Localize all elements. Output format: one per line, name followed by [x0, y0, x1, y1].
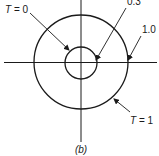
- label-t0: T = 0: [5, 4, 29, 15]
- label-t1-eq: = 1: [136, 115, 153, 126]
- label-r03: 0.3: [127, 0, 141, 7]
- figure-caption: (b): [75, 144, 87, 155]
- r10-arrow: [128, 36, 141, 60]
- label-r10: 1.0: [142, 24, 156, 35]
- t1-arrow: [114, 99, 130, 112]
- label-t0-eq: = 0: [11, 4, 28, 15]
- r03-arrow: [96, 8, 126, 60]
- diagram-figure: T = 0 0.3 1.0 T = 1 (b): [0, 0, 159, 156]
- label-t1: T = 1: [130, 115, 154, 126]
